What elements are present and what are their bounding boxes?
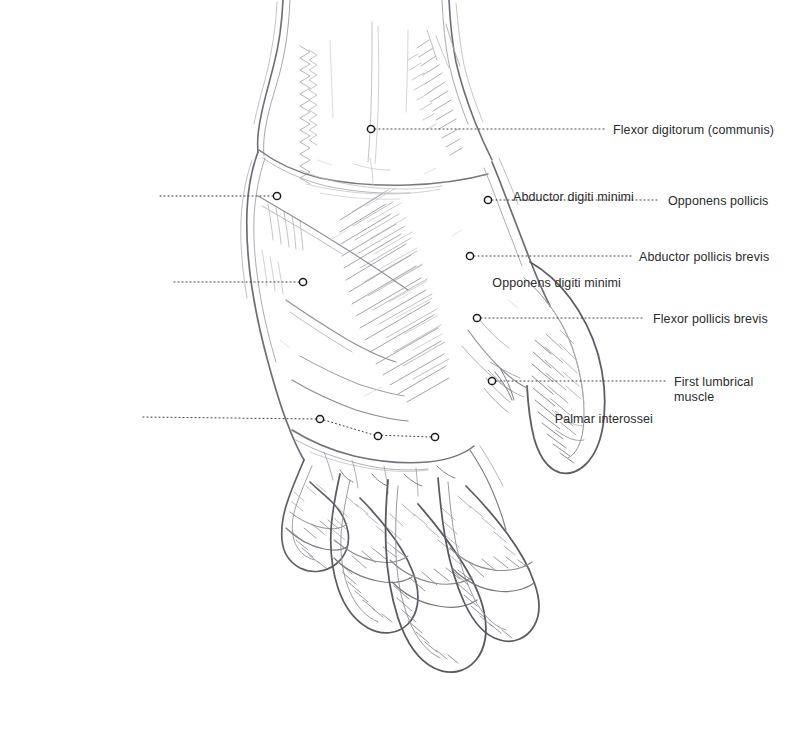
label-abductor-digiti-minimi: Abductor digiti minimi [513, 190, 634, 205]
label-abductor-pollicis-brevis: Abductor pollicis brevis [639, 250, 769, 265]
marker-opponens-digiti-minimi[interactable] [299, 278, 306, 285]
label-abductor-pollicis-brevis-line-1: Abductor pollicis brevis [639, 250, 769, 265]
label-palmar-interossei-line-1: Palmar interossei [555, 412, 653, 427]
label-opponens-digiti-minimi: Opponens digiti minimi [492, 276, 621, 291]
label-first-lumbrical-muscle-line-2: muscle [674, 390, 753, 405]
marker-palmar-interossei-3[interactable] [431, 433, 438, 440]
marker-flexor-digitorum-communis[interactable] [367, 125, 374, 132]
marker-palmar-interossei-2[interactable] [374, 432, 381, 439]
hand-drawing [241, 0, 605, 672]
label-opponens-pollicis: Opponens pollicis [668, 194, 768, 209]
leader-line-palmar-interossei [141, 417, 316, 419]
hand-anatomy-figure [0, 0, 786, 734]
marker-palmar-interossei[interactable] [316, 415, 323, 422]
marker-abductor-pollicis-brevis[interactable] [466, 252, 473, 259]
label-first-lumbrical-muscle: First lumbricalmuscle [674, 375, 753, 405]
label-abductor-digiti-minimi-line-1: Abductor digiti minimi [513, 190, 634, 205]
marker-opponens-pollicis[interactable] [484, 196, 491, 203]
marker-flexor-pollicis-brevis[interactable] [473, 314, 480, 321]
hand-sketch-svg [0, 0, 786, 734]
label-flexor-digitorum-communis: Flexor digitorum (communis) [613, 123, 774, 138]
label-flexor-pollicis-brevis: Flexor pollicis brevis [653, 312, 768, 327]
marker-first-lumbrical-muscle[interactable] [488, 377, 495, 384]
label-opponens-digiti-minimi-line-1: Opponens digiti minimi [492, 276, 621, 291]
label-palmar-interossei: Palmar interossei [555, 412, 653, 427]
label-flexor-pollicis-brevis-line-1: Flexor pollicis brevis [653, 312, 768, 327]
label-opponens-pollicis-line-1: Opponens pollicis [668, 194, 768, 209]
label-flexor-digitorum-communis-line-1: Flexor digitorum (communis) [613, 123, 774, 138]
marker-abductor-digiti-minimi[interactable] [273, 192, 280, 199]
label-first-lumbrical-muscle-line-1: First lumbrical [674, 375, 753, 390]
